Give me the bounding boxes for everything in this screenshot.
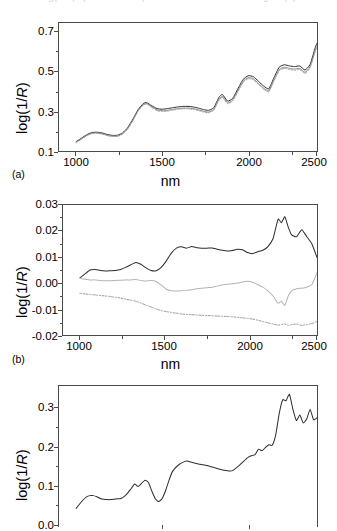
curve-loading-1-solid-dark xyxy=(80,217,317,278)
panel-b-ytick-0: -0.02 xyxy=(32,330,58,342)
curve-loading-3-dotted-gray xyxy=(80,293,317,325)
panel-b-ytick-5: 0.03 xyxy=(36,198,58,210)
panel-a-plot-area xyxy=(58,22,318,152)
panel-a-ytick-3: 0.7 xyxy=(38,25,54,37)
panel-c-ytick-1: 0.1 xyxy=(38,480,54,492)
panel-a: log(1/R) 0.1 0.3 0.5 0.7 1000 1500 2000 … xyxy=(0,10,337,185)
panel-a-y-axis-label: log(1/R) xyxy=(14,82,30,134)
panel-b-xtick-3: 2500 xyxy=(301,340,327,352)
panel-b-ytick-2: 0.00 xyxy=(36,277,58,289)
panel-a-ytick-0: 0.1 xyxy=(38,146,54,158)
panel-a-xtick-3: 2500 xyxy=(301,156,327,168)
panel-a-xtick-mark-minor-0 xyxy=(119,152,120,155)
curve-loading-2-solid-lightgray xyxy=(80,273,317,306)
panel-c-curves xyxy=(59,386,317,527)
panel-a-xtick-1: 1500 xyxy=(149,156,175,168)
panel-b-plot-area xyxy=(62,204,318,336)
panel-b: log(1/R) -0.02 -0.01 0.00 0.01 0.02 0.03… xyxy=(0,190,337,370)
panel-b-xtick-1: 1500 xyxy=(151,340,177,352)
panel-a-ytick-1: 0.3 xyxy=(38,106,54,118)
curve-spectrum-2-solid-gray xyxy=(76,46,317,142)
panel-b-tag: (b) xyxy=(12,353,25,365)
panel-c-plot-area xyxy=(58,385,318,527)
curve-spectrum-1-solid-dark xyxy=(76,43,317,141)
panel-a-x-axis-label: nm xyxy=(2,173,337,189)
panel-b-ytick-mark-0 xyxy=(58,336,62,337)
panel-b-x-axis-label: nm xyxy=(2,356,337,372)
panel-c-ytick-0: 0.0 xyxy=(38,519,54,531)
panel-b-xtick-2: 2000 xyxy=(237,340,263,352)
panel-b-xtick-0: 1000 xyxy=(66,340,92,352)
panel-c: log(1/R) 0.0 0.1 0.2 0.3 xyxy=(0,373,337,527)
panel-b-ytick-4: 0.02 xyxy=(36,224,58,236)
panel-a-xtick-0: 1000 xyxy=(63,156,89,168)
panel-c-ytick-2: 0.2 xyxy=(38,441,54,453)
panel-a-ytick-2: 0.5 xyxy=(38,65,54,77)
panel-b-y-axis-label: log(1/R) xyxy=(14,266,30,318)
panel-b-xtick-mark-minor-1 xyxy=(207,336,208,339)
panel-c-xtick-mark-0 xyxy=(162,525,163,529)
curve-spectrum-3-dotted-gray xyxy=(76,47,317,142)
curve-spectrum-solid-dark xyxy=(76,394,317,508)
panel-a-curves xyxy=(59,23,317,151)
panel-c-y-axis-label: log(1/R) xyxy=(14,449,30,501)
clipped-caption: log(1/R) spectra of samples measured in … xyxy=(0,0,337,3)
panel-a-tag: (a) xyxy=(12,168,25,180)
panel-a-xtick-mark-minor-2 xyxy=(292,152,293,155)
panel-a-xtick-mark-minor-1 xyxy=(205,152,206,155)
panel-b-xtick-mark-minor-0 xyxy=(122,336,123,339)
panel-b-ytick-1: -0.01 xyxy=(32,304,58,316)
panel-c-ytick-3: 0.3 xyxy=(38,401,54,413)
panel-b-xtick-mark-minor-2 xyxy=(292,336,293,339)
panel-a-ytick-mark-0 xyxy=(54,152,58,153)
panel-c-xtick-mark-1 xyxy=(249,525,250,529)
panel-b-curves xyxy=(63,205,317,335)
panel-a-xtick-2: 2000 xyxy=(236,156,262,168)
panel-b-ytick-3: 0.01 xyxy=(36,251,58,263)
